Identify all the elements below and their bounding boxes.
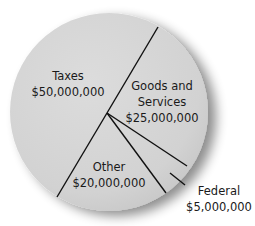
svg-text:Taxes: Taxes (51, 69, 84, 83)
pie-chart: Taxes $50,000,000 Goods and Services $25… (0, 0, 255, 226)
svg-text:$5,000,000: $5,000,000 (186, 200, 252, 214)
svg-text:Services: Services (138, 95, 187, 109)
svg-text:Other: Other (93, 160, 126, 174)
svg-text:Goods and: Goods and (131, 79, 193, 93)
svg-text:$20,000,000: $20,000,000 (72, 176, 145, 190)
svg-text:Federal: Federal (198, 184, 240, 198)
slice-label-federal: Federal $5,000,000 (186, 184, 252, 214)
svg-text:$25,000,000: $25,000,000 (125, 111, 198, 125)
svg-text:$50,000,000: $50,000,000 (31, 85, 104, 99)
